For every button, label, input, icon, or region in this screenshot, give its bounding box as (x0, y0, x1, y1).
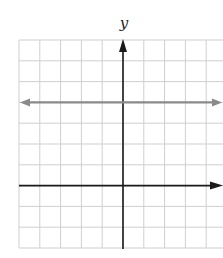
plot-series (20, 98, 222, 106)
left-arrow-icon (20, 98, 30, 106)
graph: y (0, 0, 223, 258)
x-axis-arrow-icon (210, 182, 223, 190)
series-line-0 (20, 98, 222, 106)
grid-lines (19, 40, 223, 248)
y-axis-label: y (119, 14, 129, 32)
right-arrow-icon (212, 98, 222, 106)
y-axis-arrow-icon (119, 39, 127, 52)
